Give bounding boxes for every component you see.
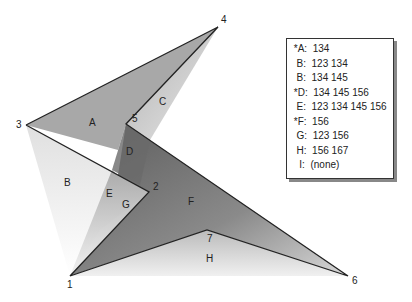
legend-row-h: H: 156 167 bbox=[291, 144, 393, 159]
legend-row-f: *F: 156 bbox=[291, 115, 393, 130]
region-label-d: D bbox=[126, 146, 133, 157]
region-a bbox=[26, 27, 218, 150]
region-label-f: F bbox=[188, 196, 194, 207]
region-label-g: G bbox=[122, 199, 130, 210]
vertex-label-5: 5 bbox=[132, 113, 138, 124]
vertex-label-3: 3 bbox=[16, 119, 22, 130]
legend-row-g: G: 123 156 bbox=[291, 129, 393, 144]
vertex-label-4: 4 bbox=[221, 14, 227, 25]
legend-row-d: *D: 134 145 156 bbox=[291, 86, 393, 101]
legend-row-b: B: 123 134 bbox=[291, 57, 393, 72]
legend-row-i: I: (none) bbox=[291, 158, 393, 173]
legend-row-a: *A: 134 bbox=[291, 42, 393, 57]
region-label-a: A bbox=[89, 117, 96, 128]
vertex-label-7: 7 bbox=[207, 233, 213, 244]
region-label-h: H bbox=[206, 253, 213, 264]
region-label-c: C bbox=[159, 96, 166, 107]
vertex-label-1: 1 bbox=[67, 279, 73, 290]
legend-row-e: E: 123 134 145 156 bbox=[291, 100, 393, 115]
legend-box: *A: 134 B: 123 134 B: 134 145 *D: 134 14… bbox=[286, 38, 394, 179]
vertex-label-6: 6 bbox=[352, 275, 358, 286]
legend-row-c: B: 134 145 bbox=[291, 71, 393, 86]
region-label-e: E bbox=[106, 188, 113, 199]
region-label-b: B bbox=[64, 177, 71, 188]
vertex-label-2: 2 bbox=[153, 181, 159, 192]
